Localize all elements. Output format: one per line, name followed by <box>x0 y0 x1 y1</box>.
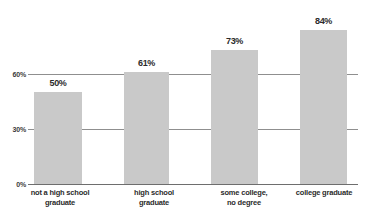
bar-chart: 60% 30% 0% 50% 61% 73% 84% not a high sc… <box>0 0 369 222</box>
bar-value-high-school-graduate: 61% <box>124 58 169 68</box>
y-axis: 60% 30% 0% <box>0 10 26 184</box>
x-label-line-2: no degree <box>189 198 299 208</box>
bar-college-graduate <box>300 30 347 184</box>
x-label-college-graduate: college graduate <box>279 188 369 198</box>
bar-value-not-a-high-school-graduate: 50% <box>34 78 82 88</box>
y-tick-label-0: 0% <box>2 181 26 188</box>
bar-high-school-graduate <box>124 72 169 184</box>
y-tick-label-60: 60% <box>2 71 26 78</box>
axis-baseline <box>28 184 358 185</box>
y-tick-label-30: 30% <box>2 126 26 133</box>
bar-not-a-high-school-graduate <box>34 92 82 184</box>
x-label-line-1: college graduate <box>279 188 369 198</box>
bar-some-college-no-degree <box>211 50 258 184</box>
plot-area: 50% 61% 73% 84% <box>28 10 358 184</box>
x-axis-labels: not a high school graduate high school g… <box>0 188 369 222</box>
bar-value-some-college-no-degree: 73% <box>211 36 258 46</box>
bar-value-college-graduate: 84% <box>300 16 347 26</box>
